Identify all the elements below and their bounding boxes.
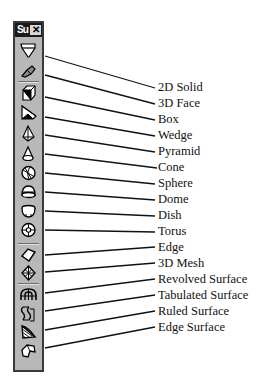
- cone-icon: [18, 145, 39, 163]
- close-button[interactable]: ✕: [30, 25, 41, 35]
- label-2d-solid: 2D Solid: [158, 80, 203, 94]
- label-box: Box: [158, 112, 179, 126]
- torus-icon: [18, 221, 39, 239]
- edge-icon: [18, 246, 39, 264]
- dome-icon: [18, 183, 39, 201]
- label-3d-mesh: 3D Mesh: [158, 256, 204, 270]
- torus-button[interactable]: [18, 221, 39, 239]
- label-ruled-surface: Ruled Surface: [158, 304, 229, 318]
- ruled-surface-icon: [18, 323, 39, 341]
- revolved-surface-icon: [18, 286, 39, 304]
- wedge-icon: [18, 104, 39, 122]
- ruled-surface-button[interactable]: [18, 323, 39, 341]
- toolbar-titlebar[interactable]: Su ✕: [15, 23, 42, 37]
- pyramid-button[interactable]: [18, 125, 39, 143]
- label-sphere: Sphere: [158, 176, 193, 190]
- label-revolved-surface: Revolved Surface: [158, 272, 247, 286]
- label-edge-surface: Edge Surface: [158, 320, 225, 334]
- label-3d-face: 3D Face: [158, 96, 200, 110]
- wedge-button[interactable]: [18, 104, 39, 122]
- 3d-face-icon: [18, 62, 39, 80]
- revolved-surface-button[interactable]: [18, 286, 39, 304]
- sphere-button[interactable]: [18, 164, 39, 182]
- edge-surface-icon: [18, 342, 39, 360]
- dish-icon: [18, 202, 39, 220]
- sphere-icon: [18, 164, 39, 182]
- toolbar-separator: [18, 81, 39, 83]
- label-cone: Cone: [158, 160, 184, 174]
- dish-button[interactable]: [18, 202, 39, 220]
- label-wedge: Wedge: [158, 128, 192, 142]
- tabulated-surface-button[interactable]: [18, 305, 39, 323]
- tabulated-surface-icon: [18, 305, 39, 323]
- dome-button[interactable]: [18, 183, 39, 201]
- 2d-solid-icon: [18, 42, 39, 60]
- 2d-solid-button[interactable]: [18, 42, 39, 60]
- edge-button[interactable]: [18, 246, 39, 264]
- box-button[interactable]: [18, 84, 39, 102]
- label-pyramid: Pyramid: [158, 144, 200, 158]
- label-dome: Dome: [158, 192, 189, 206]
- surfaces-toolbar: Su ✕: [13, 21, 44, 372]
- label-torus: Torus: [158, 224, 186, 238]
- pyramid-icon: [18, 125, 39, 143]
- cone-button[interactable]: [18, 145, 39, 163]
- 3d-face-button[interactable]: [18, 62, 39, 80]
- 3d-mesh-icon: [18, 264, 39, 282]
- label-tabulated-surface: Tabulated Surface: [158, 288, 248, 302]
- toolbar-separator: [18, 243, 39, 245]
- edge-surface-button[interactable]: [18, 342, 39, 360]
- toolbar-title: Su: [17, 23, 28, 37]
- box-icon: [18, 84, 39, 102]
- label-edge: Edge: [158, 240, 184, 254]
- toolbar-separator: [18, 283, 39, 285]
- 3d-mesh-button[interactable]: [18, 264, 39, 282]
- label-dish: Dish: [158, 208, 182, 222]
